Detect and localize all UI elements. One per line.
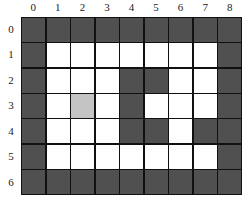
cell-marked-r3-c2 [71,94,94,118]
cell-open-r1-c2 [71,43,94,67]
cell-wall-r6-c8 [218,170,241,194]
cell-open-r4-c2 [71,119,94,143]
cell-wall-r0-c6 [169,18,192,42]
row-label: 0 [4,17,18,42]
cell-open-r2-c3 [96,69,119,93]
cell-wall-r0-c5 [145,18,168,42]
cell-wall-r6-c7 [194,170,217,194]
cell-wall-r0-c1 [47,18,70,42]
cell-wall-r6-c0 [22,170,45,194]
cell-wall-r0-c7 [194,18,217,42]
row-label: 4 [4,119,18,144]
cell-wall-r0-c4 [120,18,143,42]
column-label: 8 [217,1,242,13]
cell-wall-r3-c8 [218,94,241,118]
cell-open-r5-c5 [145,145,168,169]
column-label: 6 [168,1,193,13]
cell-wall-r6-c4 [120,170,143,194]
cell-open-r1-c4 [120,43,143,67]
cell-wall-r6-c3 [96,170,119,194]
column-label: 7 [193,1,218,13]
cell-open-r2-c1 [47,69,70,93]
cell-wall-r3-c0 [22,94,45,118]
cell-wall-r0-c8 [218,18,241,42]
column-label: 1 [46,1,71,13]
cell-wall-r6-c6 [169,170,192,194]
cell-wall-r1-c8 [218,43,241,67]
cell-open-r2-c2 [71,69,94,93]
column-label: 4 [119,1,144,13]
cell-wall-r2-c4 [120,69,143,93]
cell-wall-r0-c2 [71,18,94,42]
row-label: 1 [4,42,18,67]
cell-wall-r3-c4 [120,94,143,118]
cell-open-r3-c3 [96,94,119,118]
cell-open-r1-c3 [96,43,119,67]
cell-open-r1-c1 [47,43,70,67]
column-label: 3 [95,1,120,13]
cell-open-r3-c6 [169,94,192,118]
row-label: 5 [4,144,18,169]
cell-wall-r6-c1 [47,170,70,194]
cell-wall-r5-c8 [218,145,241,169]
column-label: 5 [144,1,169,13]
cell-open-r4-c1 [47,119,70,143]
cell-open-r5-c1 [47,145,70,169]
grid-map [21,17,242,195]
row-label: 6 [4,170,18,195]
cell-wall-r6-c5 [145,170,168,194]
cell-open-r3-c7 [194,94,217,118]
cell-wall-r4-c0 [22,119,45,143]
cell-open-r5-c7 [194,145,217,169]
cell-wall-r4-c4 [120,119,143,143]
cell-open-r5-c4 [120,145,143,169]
cell-open-r3-c1 [47,94,70,118]
cell-open-r5-c2 [71,145,94,169]
cell-open-r2-c6 [169,69,192,93]
row-label: 2 [4,68,18,93]
cell-wall-r0-c3 [96,18,119,42]
cell-wall-r4-c8 [218,119,241,143]
cell-wall-r6-c2 [71,170,94,194]
cell-open-r5-c6 [169,145,192,169]
cell-wall-r4-c5 [145,119,168,143]
cell-wall-r5-c0 [22,145,45,169]
cell-open-r3-c5 [145,94,168,118]
cell-wall-r2-c8 [218,69,241,93]
cell-wall-r4-c7 [194,119,217,143]
cell-open-r1-c7 [194,43,217,67]
cell-open-r5-c3 [96,145,119,169]
cell-wall-r2-c0 [22,69,45,93]
cell-open-r4-c3 [96,119,119,143]
cell-wall-r2-c5 [145,69,168,93]
cell-open-r1-c6 [169,43,192,67]
cell-wall-r1-c0 [22,43,45,67]
column-label: 2 [70,1,95,13]
cell-wall-r0-c0 [22,18,45,42]
cell-open-r1-c5 [145,43,168,67]
column-label: 0 [21,1,46,13]
cell-open-r4-c6 [169,119,192,143]
cell-open-r2-c7 [194,69,217,93]
row-label: 3 [4,93,18,118]
